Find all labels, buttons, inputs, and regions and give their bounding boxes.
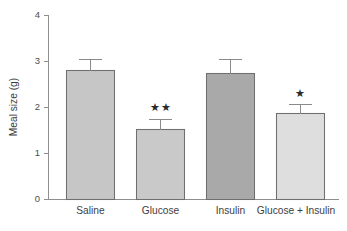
y-tick-label-0: 0 [35, 193, 40, 204]
bar-glucose-insulin [277, 114, 325, 200]
chart-canvas: 0 1 2 3 4 Meal size (g) ★★ [0, 0, 347, 231]
bar-group-insulin [207, 59, 255, 200]
x-label-saline: Saline [76, 205, 105, 216]
y-tick-label-1: 1 [35, 147, 40, 158]
x-label-glucose: Glucose [142, 205, 180, 216]
y-axis-title: Meal size (g) [8, 78, 19, 136]
x-label-insulin: Insulin [216, 205, 245, 216]
bar-chart-figure: 0 1 2 3 4 Meal size (g) ★★ [0, 0, 347, 231]
bar-insulin [207, 74, 255, 200]
bar-group-saline [67, 59, 115, 200]
y-tick-label-4: 4 [35, 9, 40, 20]
y-tick-label-2: 2 [35, 101, 40, 112]
x-label-glucose-insulin: Glucose + Insulin [257, 205, 335, 216]
bar-saline [67, 71, 115, 200]
significance-marker-glucose: ★★ [150, 101, 172, 113]
bar-glucose [137, 130, 185, 200]
significance-marker-glucose-insulin: ★ [295, 87, 306, 99]
y-tick-label-3: 3 [35, 55, 40, 66]
